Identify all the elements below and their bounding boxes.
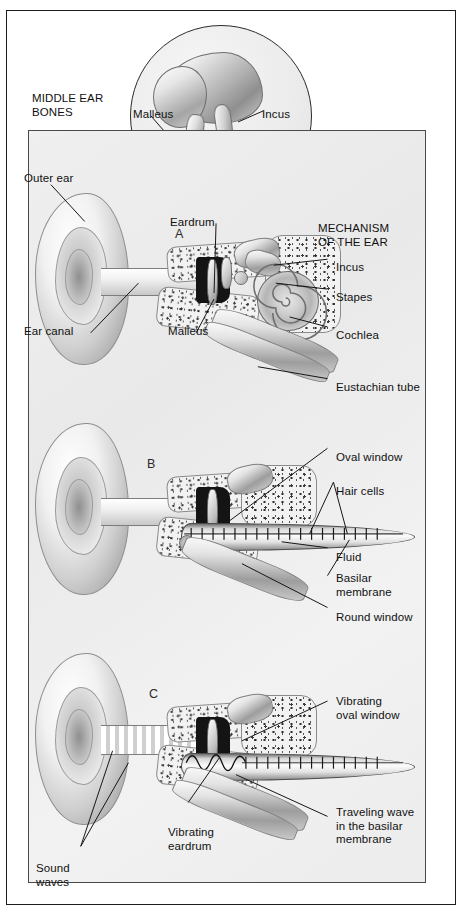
- label-hair-cells: Hair cells: [336, 485, 384, 499]
- label-eardrum: Eardrum: [170, 216, 215, 230]
- concha-a: [65, 249, 93, 305]
- label-fluid: Fluid: [336, 551, 361, 565]
- inset-title: MIDDLE EAR BONES: [32, 92, 103, 119]
- label-vibrating-eardrum: Vibrating eardrum: [168, 826, 214, 853]
- label-traveling-wave: Traveling wave in the basilar membrane: [336, 806, 414, 847]
- figure-root: MIDDLE EAR BONES Malleus Incus Stapes: [0, 0, 468, 920]
- label-stapes-a: Stapes: [336, 291, 372, 305]
- label-malleus-a: Malleus: [168, 325, 208, 339]
- label-incus-a: Incus: [336, 261, 364, 275]
- main-title: MECHANISM OF THE EAR: [318, 222, 389, 249]
- label-cochlea: Cochlea: [336, 329, 379, 343]
- inset-label-malleus: Malleus: [133, 108, 173, 122]
- concha-b: [65, 479, 93, 535]
- label-oval-window: Oval window: [336, 451, 402, 465]
- label-basilar-membrane: Basilar membrane: [336, 572, 392, 599]
- stapes-a: [234, 271, 248, 285]
- panel-letter-c: C: [149, 687, 158, 701]
- inset-label-incus: Incus: [262, 108, 290, 122]
- concha-c: [65, 709, 93, 765]
- malleus-a: [207, 259, 218, 305]
- label-eustachian-tube: Eustachian tube: [336, 381, 420, 395]
- panel-letter-b: B: [147, 457, 155, 471]
- incus-a: [221, 257, 232, 289]
- label-vibrating-oval-window: Vibrating oval window: [336, 695, 400, 722]
- label-round-window: Round window: [336, 611, 413, 625]
- label-outer-ear: Outer ear: [24, 172, 73, 186]
- label-ear-canal: Ear canal: [24, 325, 73, 339]
- label-sound-waves: Sound waves: [36, 862, 70, 889]
